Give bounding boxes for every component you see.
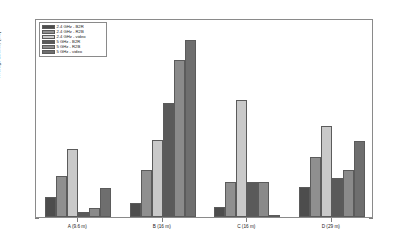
bar — [299, 187, 310, 217]
x-axis-tick — [331, 218, 332, 222]
x-axis-tick-label: C (16 m) — [237, 224, 255, 229]
legend-swatch-icon — [42, 35, 55, 39]
legend-swatch-icon — [42, 30, 55, 34]
legend-swatch-icon — [42, 25, 55, 29]
y-axis-tick — [35, 218, 39, 219]
bar — [247, 182, 258, 217]
bar — [236, 100, 247, 217]
bar — [78, 212, 89, 217]
chart-legend: 2.4 GHz - B2R2.4 GHz - R2B2.4 GHz - vide… — [39, 22, 107, 57]
legend-swatch-icon — [42, 50, 55, 54]
bar — [56, 176, 67, 217]
bar-chart-figure: Average Latency [ms] 102030405060708090A… — [0, 0, 395, 250]
bar — [152, 140, 163, 217]
y-axis-label: Average Latency [ms] — [0, 0, 1, 78]
bar — [185, 40, 196, 217]
bar — [141, 170, 152, 217]
bar — [225, 182, 236, 217]
bar — [310, 157, 321, 217]
bar — [174, 60, 185, 217]
bar — [214, 207, 225, 217]
bar — [100, 188, 111, 217]
bar — [354, 141, 365, 217]
bar — [67, 149, 78, 217]
x-axis-tick — [162, 218, 163, 222]
bar — [89, 208, 100, 217]
bar — [332, 178, 343, 217]
bar — [343, 170, 354, 217]
legend-swatch-icon — [42, 40, 55, 44]
bar — [269, 215, 280, 217]
bar — [258, 182, 269, 217]
y-axis-tick-right — [369, 218, 373, 219]
bar — [163, 103, 174, 217]
legend-item: 5 GHz - video — [42, 50, 104, 55]
x-axis-tick — [77, 218, 78, 222]
bar — [130, 203, 141, 217]
legend-label: 5 GHz - video — [57, 50, 83, 55]
x-axis-tick — [246, 218, 247, 222]
x-axis-tick-label: B (16 m) — [153, 224, 171, 229]
legend-swatch-icon — [42, 45, 55, 49]
bar — [321, 126, 332, 217]
x-axis-tick-label: A (9.6 m) — [68, 224, 87, 229]
x-axis-tick-label: D (29 m) — [322, 224, 340, 229]
bar — [45, 197, 56, 217]
